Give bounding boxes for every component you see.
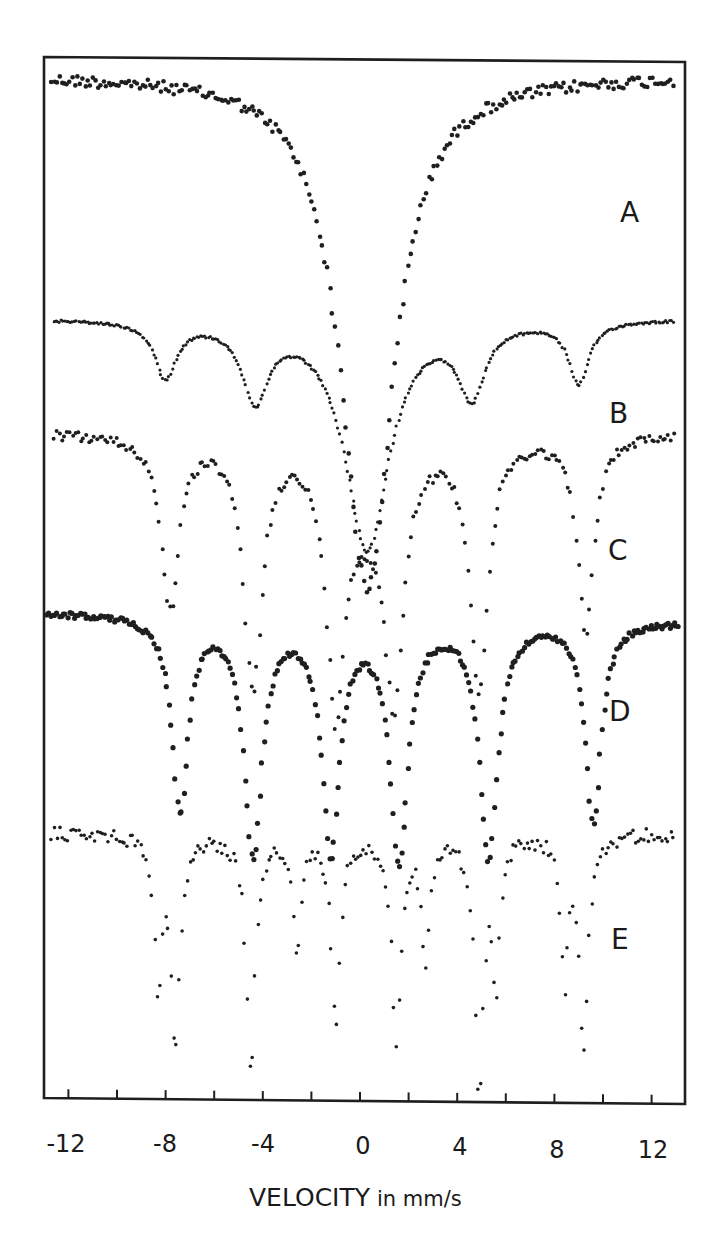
data-point [631,441,635,445]
data-point [604,469,608,473]
data-point [336,426,339,429]
data-point [482,649,486,653]
data-point [161,932,165,936]
data-point [74,829,78,833]
data-point [342,718,347,723]
data-point [420,670,425,675]
data-point [315,713,320,718]
data-point [355,520,358,523]
tick-label: 12 [638,1136,669,1164]
data-point [412,707,417,712]
data-point [431,481,435,485]
data-point [317,735,322,740]
data-point [581,720,586,725]
data-point [600,727,605,732]
data-point [484,959,488,963]
data-point [192,682,197,687]
mossbauer-figure: A B C D E -12 -8 -4 0 4 8 12 VELOCITY in… [0,0,727,1246]
data-point [184,83,189,88]
data-point [76,430,80,434]
data-point [299,357,302,360]
data-point [423,487,427,491]
data-point [637,76,642,81]
data-point [361,848,365,852]
data-point [676,624,681,629]
data-point [269,373,272,376]
data-point [328,397,331,400]
data-point [564,993,568,997]
data-point [161,79,166,84]
data-point [305,860,309,864]
data-point [361,543,364,546]
data-point [127,79,132,84]
data-point [385,446,390,451]
data-point [410,875,414,879]
data-point [304,665,309,670]
data-point [52,437,56,441]
data-point [348,479,351,482]
data-point [159,89,164,94]
data-point [161,547,165,551]
data-point [182,791,187,796]
data-point [645,85,650,90]
data-point [566,486,570,490]
data-point [244,383,247,386]
data-point [457,850,461,854]
data-point [302,359,305,362]
data-point [584,370,587,373]
data-point [448,141,453,146]
data-point [228,859,232,863]
data-point [322,260,327,265]
data-point [579,380,582,383]
data-point [234,695,239,700]
data-point [232,680,237,685]
data-point [60,439,64,443]
data-point [446,844,450,848]
data-point [250,685,254,689]
data-point [302,171,307,176]
data-point [462,871,466,875]
data-point [333,1005,337,1009]
data-point [599,855,603,859]
data-point [544,85,549,90]
data-point [239,368,242,371]
data-point [485,366,488,369]
data-point [90,832,94,836]
data-point [254,113,259,118]
data-point [68,430,72,434]
data-point [407,555,411,559]
data-point [476,392,479,395]
data-point [430,889,434,893]
data-point [89,439,93,443]
data-point [176,354,179,357]
data-point [493,524,497,528]
data-point [379,865,383,869]
data-point [374,528,377,531]
data-point [309,498,313,502]
data-point [349,474,354,479]
series-d [44,610,681,869]
data-point [338,432,341,435]
data-point [395,688,399,692]
data-point [536,332,539,335]
data-point [85,78,90,83]
data-point [511,462,515,466]
data-point [325,836,330,841]
data-point [472,716,477,721]
data-point [93,78,98,83]
data-point [344,616,348,620]
data-point [633,445,637,449]
data-point [166,378,169,381]
data-point [418,203,423,208]
tick-label: -8 [153,1130,177,1158]
data-point [547,92,552,97]
data-point [406,766,411,771]
data-point [156,362,159,365]
data-point [336,343,341,348]
series-e [49,826,675,1091]
data-point [223,844,227,848]
data-point [143,84,148,89]
data-point [346,451,351,456]
data-point [497,750,502,755]
data-point [330,311,335,316]
